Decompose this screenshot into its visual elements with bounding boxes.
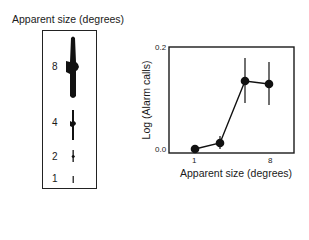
x-tick-8: 8 [268, 156, 272, 165]
data-point-4 [241, 77, 250, 86]
hawk-silhouette-4-icon [70, 110, 76, 140]
x-tick-1: 1 [192, 156, 196, 165]
hawk-silhouette-8-icon [66, 37, 79, 99]
data-line [195, 81, 269, 149]
x-axis-label: Apparent size (degrees) [180, 167, 292, 179]
data-point-1 [191, 145, 200, 154]
plot-frame [169, 47, 294, 153]
hawk-silhouette-2-icon [72, 150, 76, 162]
y-tick-0.2: 0.2 [155, 43, 166, 52]
y-axis-label: Log (Alarm calls) [140, 61, 152, 140]
error-bars [220, 58, 269, 149]
y-tick-0.0: 0.0 [155, 145, 166, 154]
data-point-8 [265, 80, 274, 89]
data-point-2 [216, 139, 225, 148]
hawk-silhouette-1-icon [73, 176, 74, 183]
